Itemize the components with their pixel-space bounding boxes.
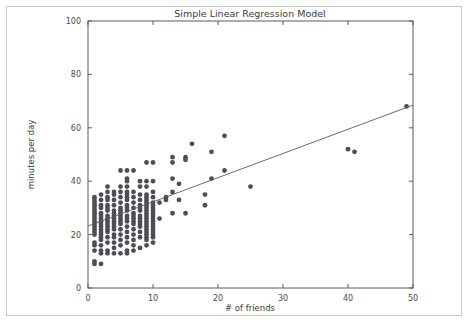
- scatter-point: [112, 203, 117, 208]
- scatter-point: [125, 195, 130, 200]
- scatter-point: [118, 243, 123, 248]
- figure-canvas: Simple Linear Regression Model 010203040…: [0, 0, 470, 324]
- x-tick-label: 50: [408, 294, 418, 303]
- scatter-point: [99, 262, 104, 267]
- chart-title: Simple Linear Regression Model: [174, 8, 326, 19]
- scatter-point: [203, 203, 208, 208]
- scatter-point: [92, 216, 97, 221]
- scatter-point: [118, 184, 123, 189]
- scatter-point: [138, 230, 143, 235]
- scatter-point: [112, 211, 117, 216]
- scatter-point: [157, 200, 162, 205]
- scatter-point: [105, 189, 110, 194]
- scatter-point: [112, 251, 117, 256]
- scatter-point: [131, 232, 136, 237]
- scatter-point: [151, 160, 156, 165]
- chart-title-group: Simple Linear Regression Model: [174, 8, 326, 19]
- scatter-point: [144, 160, 149, 165]
- scatter-point: [138, 184, 143, 189]
- scatter-point: [131, 200, 136, 205]
- scatter-point: [105, 214, 110, 219]
- scatter-point: [105, 227, 110, 232]
- scatter-point: [125, 206, 130, 211]
- scatter-point: [138, 179, 143, 184]
- y-axis-label: minutes per day: [26, 120, 36, 190]
- y-tick-label: 80: [71, 70, 81, 79]
- scatter-point: [99, 192, 104, 197]
- regression-line: [88, 105, 413, 226]
- scatter-point: [125, 224, 130, 229]
- y-axis-ticks: 020406080100: [66, 17, 413, 293]
- scatter-point: [177, 181, 182, 186]
- scatter-point: [183, 211, 188, 216]
- scatter-point: [352, 149, 357, 154]
- scatter-point: [118, 238, 123, 243]
- scatter-point: [125, 235, 130, 240]
- scatter-point: [125, 248, 130, 253]
- scatter-point: [138, 192, 143, 197]
- scatter-point: [99, 232, 104, 237]
- scatter-point: [151, 179, 156, 184]
- scatter-point: [138, 222, 143, 227]
- scatter-point: [138, 246, 143, 251]
- regression-line-group: [88, 105, 413, 226]
- scatter-point: [118, 168, 123, 173]
- scatter-point: [92, 195, 97, 200]
- scatter-point: [92, 248, 97, 253]
- scatter-point: [138, 197, 143, 202]
- scatter-point: [99, 243, 104, 248]
- scatter-point: [203, 192, 208, 197]
- scatter-point: [125, 189, 130, 194]
- scatter-point: [99, 224, 104, 229]
- scatter-point: [92, 259, 97, 264]
- scatter-point: [105, 195, 110, 200]
- scatter-point: [144, 195, 149, 200]
- scatter-point: [112, 189, 117, 194]
- scatter-point: [112, 240, 117, 245]
- scatter-point: [125, 184, 130, 189]
- y-tick-label: 100: [66, 17, 81, 26]
- y-tick-label: 60: [71, 124, 81, 133]
- scatter-point: [131, 238, 136, 243]
- scatter-point: [131, 219, 136, 224]
- scatter-point: [125, 230, 130, 235]
- scatter-point: [151, 195, 156, 200]
- y-tick-label: 20: [71, 231, 81, 240]
- scatter-point: [118, 232, 123, 237]
- scatter-point: [346, 147, 351, 152]
- scatter-point: [112, 197, 117, 202]
- scatter-point: [99, 248, 104, 253]
- x-tick-label: 0: [85, 294, 90, 303]
- scatter-point: [151, 240, 156, 245]
- x-tick-label: 20: [213, 294, 223, 303]
- scatter-point: [125, 240, 130, 245]
- scatter-point: [190, 141, 195, 146]
- x-axis-label: # of friends: [225, 303, 276, 313]
- scatter-point: [118, 189, 123, 194]
- scatter-point: [105, 184, 110, 189]
- scatter-point: [118, 200, 123, 205]
- scatter-point: [105, 206, 110, 211]
- y-tick-label: 40: [71, 177, 81, 186]
- x-axis-ticks: 01020304050: [85, 21, 418, 303]
- scatter-point: [209, 149, 214, 154]
- scatter-point: [118, 208, 123, 213]
- scatter-point: [138, 216, 143, 221]
- scatter-point: [125, 168, 130, 173]
- scatter-point: [105, 240, 110, 245]
- scatter-point: [105, 248, 110, 253]
- scatter-point: [125, 216, 130, 221]
- scatter-point: [144, 179, 149, 184]
- scatter-point: [144, 184, 149, 189]
- scatter-point: [248, 184, 253, 189]
- scatter-point: [131, 214, 136, 219]
- scatter-point: [125, 176, 130, 181]
- scatter-points-group: [92, 104, 409, 266]
- scatter-point: [131, 189, 136, 194]
- scatter-point: [177, 197, 182, 202]
- x-tick-label: 30: [278, 294, 288, 303]
- scatter-point: [99, 197, 104, 202]
- scatter-point: [99, 214, 104, 219]
- scatter-point: [222, 168, 227, 173]
- scatter-point: [144, 235, 149, 240]
